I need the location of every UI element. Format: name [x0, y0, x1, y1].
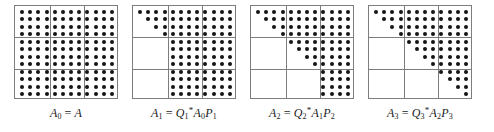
matrix-entry-dot	[102, 62, 106, 66]
matrix-entry-dot	[338, 25, 342, 29]
matrix-entry-dot	[272, 10, 276, 14]
caption-equals-sign: =	[166, 106, 173, 120]
matrix-entry-dot	[297, 32, 301, 36]
matrix-entry-dot	[36, 55, 40, 59]
matrix-entry-dot	[346, 25, 350, 29]
matrix-entry-dot	[77, 17, 81, 21]
matrix-entry-dot	[431, 32, 435, 36]
matrix-entry-dot	[321, 40, 325, 44]
matrix-entry-dot	[448, 62, 452, 66]
matrix-entry-dot	[69, 70, 73, 74]
matrix-entry-dot	[179, 10, 183, 14]
matrix-entry-dot	[464, 62, 468, 66]
matrix-entry-dot	[228, 17, 232, 21]
matrix-entry-dot	[77, 25, 81, 29]
matrix-entry-dot	[330, 77, 334, 81]
matrix-entry-dot	[171, 70, 175, 74]
matrix-entry-dot	[399, 25, 403, 29]
matrix-entry-dot	[85, 10, 89, 14]
matrix-entry-dot	[212, 10, 216, 14]
matrix-entry-dot	[45, 47, 49, 51]
matrix-entry-dot	[171, 55, 175, 59]
matrix-entry-dot	[220, 17, 224, 21]
matrix-entry-dot	[456, 55, 460, 59]
matrix-entry-dot	[20, 55, 24, 59]
matrix-entry-dot	[45, 32, 49, 36]
matrix-entry-dot	[163, 32, 167, 36]
matrix-entry-dot	[431, 10, 435, 14]
matrix-entry-dot	[187, 70, 191, 74]
matrix-entry-dot	[171, 17, 175, 21]
matrix-entry-dot	[163, 25, 167, 29]
caption-rhs-subscript: 0	[201, 112, 205, 121]
matrix-entry-dot	[272, 17, 276, 21]
matrix-entry-dot	[61, 92, 65, 96]
matrix-entry-dot	[346, 32, 350, 36]
matrix-entry-dot	[179, 47, 183, 51]
matrix-entry-dot	[399, 17, 403, 21]
matrix-entry-dot	[338, 92, 342, 96]
matrix-entry-dot	[338, 47, 342, 51]
matrix-entry-dot	[464, 92, 468, 96]
matrix-entry-dot	[53, 70, 57, 74]
matrix-entry-dot	[203, 92, 207, 96]
block-divider-horizontal	[133, 37, 235, 38]
matrix-panel	[132, 5, 236, 99]
matrix-entry-dot	[61, 85, 65, 89]
matrix-entry-dot	[102, 17, 106, 21]
matrix-entry-dot	[94, 47, 98, 51]
matrix-entry-dot	[36, 92, 40, 96]
matrix-entry-dot	[69, 32, 73, 36]
matrix-entry-dot	[220, 77, 224, 81]
matrix-entry-dot	[36, 40, 40, 44]
matrix-entry-dot	[179, 32, 183, 36]
matrix-entry-dot	[77, 85, 81, 89]
matrix-entry-dot	[179, 62, 183, 66]
matrix-entry-dot	[212, 25, 216, 29]
matrix-entry-dot	[28, 10, 32, 14]
matrix-entry-dot	[187, 62, 191, 66]
matrix-entry-dot	[20, 77, 24, 81]
matrix-entry-dot	[195, 40, 199, 44]
caption-rhs-term: P	[323, 106, 331, 120]
matrix-entry-dot	[305, 47, 309, 51]
matrix-entry-dot	[423, 10, 427, 14]
matrix-entry-dot	[228, 85, 232, 89]
matrix-entry-dot	[94, 25, 98, 29]
matrix-entry-dot	[77, 55, 81, 59]
matrix-entry-dot	[187, 40, 191, 44]
matrix-entry-dot	[195, 85, 199, 89]
matrix-entry-dot	[102, 92, 106, 96]
caption-lhs-subscript: 1	[159, 112, 163, 121]
matrix-entry-dot	[415, 10, 419, 14]
panel-caption: A2=Q2*A1P2	[250, 106, 354, 121]
matrix-entry-dot	[212, 62, 216, 66]
caption-rhs-term: P	[441, 106, 449, 120]
matrix-entry-dot	[330, 55, 334, 59]
matrix-entry-dot	[36, 10, 40, 14]
matrix-entry-dot	[289, 25, 293, 29]
matrix-entry-dot	[61, 25, 65, 29]
matrix-entry-dot	[228, 32, 232, 36]
matrix-entry-dot	[85, 40, 89, 44]
matrix-entry-dot	[203, 70, 207, 74]
matrix-entry-dot	[45, 77, 49, 81]
matrix-entry-dot	[415, 32, 419, 36]
matrix-entry-dot	[36, 70, 40, 74]
matrix-entry-dot	[53, 85, 57, 89]
matrix-entry-dot	[154, 17, 158, 21]
matrix-entry-dot	[77, 10, 81, 14]
matrix-entry-dot	[163, 17, 167, 21]
matrix-entry-dot	[330, 62, 334, 66]
matrix-entry-dot	[28, 62, 32, 66]
matrix-entry-dot	[28, 32, 32, 36]
matrix-entry-dot	[45, 85, 49, 89]
matrix-entry-dot	[171, 85, 175, 89]
matrix-entry-dot	[228, 55, 232, 59]
matrix-entry-dot	[187, 10, 191, 14]
matrix-entry-dot	[110, 62, 114, 66]
matrix-entry-dot	[431, 55, 435, 59]
matrix-entry-dot	[338, 62, 342, 66]
matrix-entry-dot	[439, 10, 443, 14]
matrix-entry-dot	[313, 62, 317, 66]
